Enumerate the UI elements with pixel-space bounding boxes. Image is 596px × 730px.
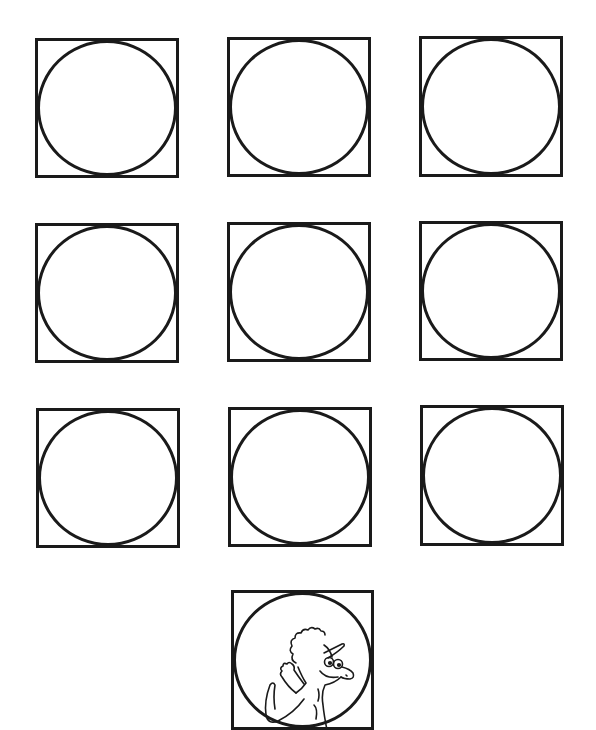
circle-cell-r2c1 (35, 223, 179, 363)
circle-shape (422, 407, 562, 544)
circle-cell-r2c2 (227, 222, 371, 362)
dinosaur-cell (231, 590, 374, 730)
circle-cell-r3c1 (36, 408, 180, 548)
dinosaur-icon (234, 593, 374, 730)
circle-shape (37, 40, 177, 176)
circle-shape (37, 225, 177, 361)
circle-shape (421, 223, 561, 359)
circle-cell-r1c2 (227, 37, 371, 177)
circle-cell-r2c3 (419, 221, 563, 361)
circle-shape (421, 38, 561, 175)
circle-shape (229, 224, 369, 360)
circle-shape (229, 39, 369, 175)
circle-cell-r3c2 (228, 407, 372, 547)
circle-cell-r1c3 (419, 36, 563, 177)
circle-cell-r1c1 (35, 38, 179, 178)
circle-cell-r3c3 (420, 405, 564, 546)
circle-shape (230, 409, 370, 545)
circle-shape (38, 410, 178, 546)
